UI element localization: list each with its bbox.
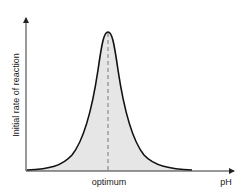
y-axis-label: Initial rate of reaction	[11, 53, 21, 137]
x-axis-label: pH	[220, 177, 232, 187]
optimum-tick-label: optimum	[92, 177, 127, 187]
chart-canvas	[0, 0, 242, 196]
area-fill	[27, 32, 192, 171]
